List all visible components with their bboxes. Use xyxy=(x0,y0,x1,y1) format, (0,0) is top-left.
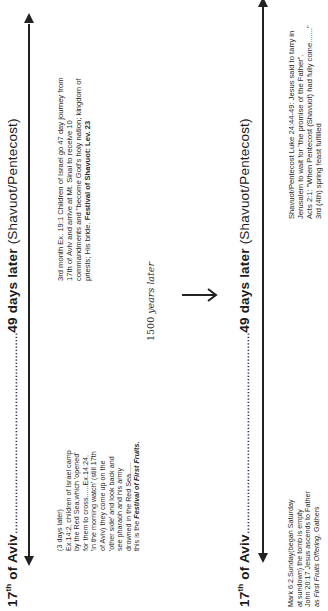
start-day: 17 xyxy=(237,592,252,607)
bottom-timeline-line xyxy=(262,6,264,556)
note-line: as First Fruits Offering, Gathers xyxy=(313,457,322,607)
note-text: priests; His bride. xyxy=(83,220,92,281)
start-day: 17 xyxy=(5,592,20,607)
end-label-bold: 49 days later xyxy=(5,248,20,332)
diagram-canvas: 17th of Aviv............................… xyxy=(0,0,328,611)
note-line: priests; His bride. Festival of Shavuot:… xyxy=(83,1,92,281)
arrow-left-icon xyxy=(24,556,34,566)
note-line: commandments and "become God's holy nati… xyxy=(74,1,83,281)
note-line: 3rd month Ex. 19:1 Children of Israel go… xyxy=(56,1,65,281)
note-line: Shavuot/Pentecost Luke 24:44-49: Jesus s… xyxy=(287,0,296,219)
note-text: this is the xyxy=(132,519,141,551)
down-arrow-icon xyxy=(182,287,218,303)
top-start-label: 17th of Aviv............................… xyxy=(4,118,20,607)
top-timeline-line xyxy=(28,24,30,559)
top-right-note: 3rd month Ex. 19:1 Children of Israel go… xyxy=(56,1,92,281)
top-left-note: (3 days later) Ex.14:2, children of Isra… xyxy=(56,421,142,551)
transition-label: 1500 years later xyxy=(145,262,156,341)
bottom-left-note: Mark 6:2,Sunday(began Saturday at sundow… xyxy=(287,457,321,607)
note-text: , Gathers xyxy=(312,506,321,536)
note-line: this is the Festival of First Fruits. xyxy=(133,421,142,551)
ordinal-suffix: th xyxy=(4,584,13,592)
festival-first-fruits: Festival of First Fruits. xyxy=(132,442,141,519)
note-line: 17th of Aviv and arrive at Mt. Sinai to … xyxy=(65,1,74,281)
start-month: of Aviv xyxy=(5,534,20,583)
end-label-plain: (Shavuot/Pentecost) xyxy=(5,118,20,248)
dotted-leader: ........................................… xyxy=(5,333,20,535)
note-line: Jerusalem to wait for "the promise of th… xyxy=(296,0,305,219)
note-text: as xyxy=(312,597,321,607)
ordinal-suffix: th xyxy=(236,584,245,592)
first-fruits-offering: First Fruits Offering xyxy=(312,536,321,598)
start-month: of Aviv xyxy=(237,534,252,583)
festival-shavuot: Festival of Shavuot: Lev. 23 xyxy=(83,121,92,220)
note-line: Acts 2:1: "When Pentecost (Shavuot) had … xyxy=(305,0,314,219)
arrow-left-icon xyxy=(258,553,268,563)
bottom-right-note: Shavuot/Pentecost Luke 24:44-49: Jesus s… xyxy=(287,0,323,219)
bottom-start-label: 17th of Aviv............................… xyxy=(236,118,252,607)
dotted-leader: ........................................… xyxy=(237,333,252,535)
end-label-plain: (Shavuot/Pentecost) xyxy=(237,118,252,248)
years-number: 1500 xyxy=(145,317,156,341)
note-line: 3rd (4th) spring feast fulfilled xyxy=(314,0,323,219)
years-text: years later xyxy=(145,262,156,314)
arrow-right-icon xyxy=(24,13,34,23)
end-label-bold: 49 days later xyxy=(237,248,252,332)
arrow-right-icon xyxy=(258,0,268,7)
